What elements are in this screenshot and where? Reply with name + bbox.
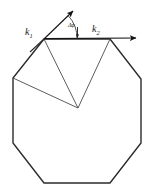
label-k1: k1: [25, 27, 33, 40]
k2-arrow: [44, 38, 136, 39]
label-k1-subscript: 1: [29, 32, 32, 39]
octagon-outline: [13, 39, 141, 183]
label-k2-subscript: 2: [96, 29, 99, 36]
octagon-diagram-svg: [0, 0, 154, 193]
figure-container: k1 k2 Δφ: [0, 0, 154, 193]
delta-phi-tick-head: [76, 34, 79, 38]
label-k2: k2: [92, 24, 100, 37]
label-delta-phi: Δφ: [68, 22, 74, 28]
